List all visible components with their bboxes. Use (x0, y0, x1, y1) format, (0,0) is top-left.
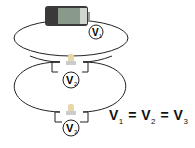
wire-right (83, 62, 126, 112)
parallel-circuit-diagram: V 1 V 2 V 3 (0, 0, 195, 148)
eq-term-1: V (109, 107, 119, 123)
voltage-equation: V1 = V2 = V3 (109, 107, 188, 126)
eq-term-3: V (174, 107, 184, 123)
voltmeter-2-icon: V 2 (63, 72, 79, 88)
wire-left (14, 62, 60, 112)
eq-term-2: V (141, 107, 151, 123)
voltmeter-1-icon: V 1 (89, 25, 103, 39)
svg-text:1: 1 (99, 33, 102, 39)
eq-sub-3: 3 (183, 117, 188, 126)
svg-text:V: V (66, 74, 74, 86)
svg-text:V: V (92, 27, 99, 38)
voltmeter-3-icon: V 3 (63, 120, 79, 136)
battery-icon (45, 6, 90, 26)
eq-sub-1: 1 (119, 117, 124, 126)
eq-op-1: = (128, 107, 137, 123)
bulb-2-icon (52, 54, 88, 72)
svg-text:V: V (66, 122, 74, 134)
bulb-3-icon (55, 104, 88, 122)
eq-sub-2: 2 (151, 117, 156, 126)
eq-op-2: = (160, 107, 169, 123)
